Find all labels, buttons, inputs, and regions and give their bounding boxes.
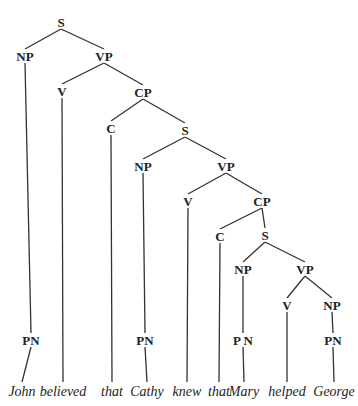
tree-edge [262,208,265,228]
terminal-edge [62,98,63,382]
word-helped: helped [268,385,305,399]
tree-node-np3: NP [233,263,252,276]
tree-node-pn1: PN [21,334,40,347]
tree-node-pn2: PN [135,334,154,347]
tree-node-vp2: VP [216,160,235,173]
tree-edge [226,173,262,194]
tree-node-v3: V [281,299,292,312]
tree-node-pn3: P N [232,334,254,347]
terminal-edge [333,347,334,382]
word-believed: believed [40,385,87,399]
tree-edge [111,99,143,121]
tree-node-c2: C [214,230,225,243]
terminal-edge [145,347,147,382]
tree-edge [143,173,145,333]
tree-node-c1: C [105,122,116,135]
tree-node-s1: S [56,16,65,29]
terminal-edge [243,347,244,382]
tree-edge [185,137,226,159]
tree-node-s3: S [260,229,269,242]
tree-node-cp1: CP [133,86,152,99]
terminal-edge [219,243,220,382]
tree-edge [143,137,185,159]
tree-edge [287,276,305,298]
tree-edges [0,0,358,406]
tree-edge [61,29,104,49]
syntax-tree-diagram: SNPVPVCPCSNPVPVCPCSNPVPVNPPNPNP NPN John… [0,0,358,406]
tree-node-np2: NP [133,160,152,173]
tree-node-pn4: PN [323,334,342,347]
word-john: John [8,385,35,399]
tree-edge [265,242,305,262]
tree-node-vp1: VP [94,50,113,63]
tree-edge [62,63,104,84]
tree-node-np1: NP [15,50,34,63]
terminal-edge [111,135,112,382]
tree-edge [220,208,262,229]
tree-edge [25,29,61,49]
word-that: that [101,385,123,399]
tree-edge [104,63,143,85]
tree-node-v2: V [182,195,193,208]
terminal-edge [187,208,188,382]
tree-node-vp3: VP [295,263,314,276]
word-george: George [313,385,354,399]
tree-edge [25,63,31,333]
word-that: that [208,385,230,399]
word-cathy: Cathy [130,385,163,399]
word-knew: knew [173,385,202,399]
tree-edge [243,242,265,262]
tree-node-np4: NP [322,299,341,312]
tree-edge [305,276,332,298]
tree-node-v1: V [56,85,67,98]
terminal-edge [22,347,31,382]
tree-edge [188,173,226,194]
tree-edge [143,99,185,123]
tree-node-cp2: CP [252,195,271,208]
tree-edge [332,312,333,333]
word-mary: Mary [229,385,259,399]
tree-node-s2: S [180,124,189,137]
